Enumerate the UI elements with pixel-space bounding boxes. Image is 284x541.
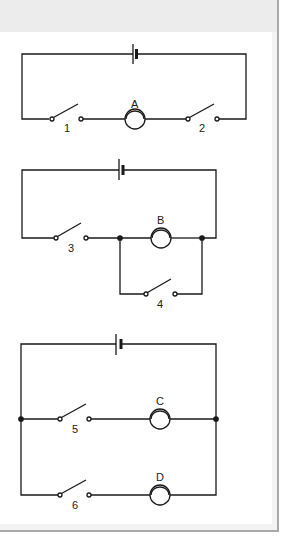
switch-2 [186,104,219,121]
wire [123,170,216,238]
switch-5 [58,404,91,421]
bulb-icon [151,228,171,248]
battery-icon [116,334,121,355]
bulb-icon [150,485,170,505]
switch-label: 6 [72,499,78,511]
circuit-2: 3 B 4 [22,159,216,310]
bulb-label: D [156,471,164,483]
battery-icon [119,159,123,180]
switch-label: 1 [64,122,70,134]
switch-1 [50,104,83,121]
wire [177,238,202,294]
bulb-label: A [131,98,139,110]
wire [120,238,144,294]
bulb-label: C [156,395,164,407]
wire [137,54,246,119]
wire [22,54,133,119]
switch-label: 2 [199,122,205,134]
bulb-label: B [157,214,164,226]
switch-label: 5 [72,423,78,435]
bulb-icon [125,109,145,129]
switch-3 [54,223,88,240]
switch-4 [144,279,177,296]
junction-dot [214,417,218,421]
switch-6 [58,480,91,497]
circuit-diagrams: 1 A 2 3 [0,0,284,541]
switch-label: 4 [157,298,163,310]
junction-dot [19,417,23,421]
circuit-1: 1 A 2 [22,44,246,134]
battery-icon [133,44,137,64]
switch-label: 3 [68,242,74,254]
wire [22,170,119,238]
circuit-3: 5 C 6 D [19,334,218,511]
bulb-icon [150,409,170,429]
